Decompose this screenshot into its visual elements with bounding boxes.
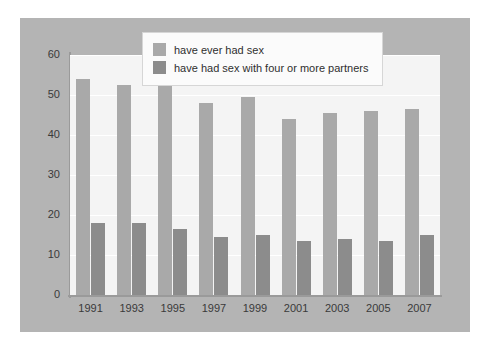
y-tick-label: 50: [34, 89, 60, 100]
bar: [323, 113, 337, 295]
legend-item-label: have had sex with four or more partners: [174, 62, 368, 74]
bar: [173, 229, 187, 295]
bar: [214, 237, 228, 295]
x-tick-label: 2007: [399, 302, 440, 314]
legend-item-label: have ever had sex: [174, 44, 264, 56]
chart-legend: have ever had sexhave had sex with four …: [142, 32, 383, 86]
x-tick-label: 1995: [152, 302, 193, 314]
bar: [117, 85, 131, 295]
x-tick-label: 1999: [234, 302, 275, 314]
legend-item: have had sex with four or more partners: [153, 59, 368, 76]
bar: [199, 103, 213, 295]
bar-chart-figure: 0102030405060 19911993199519971999200120…: [0, 0, 491, 350]
bar: [379, 241, 393, 295]
x-tick-label: 2005: [358, 302, 399, 314]
x-tick-label: 2003: [317, 302, 358, 314]
x-tick-label: 1993: [111, 302, 152, 314]
bar: [420, 235, 434, 295]
y-tick-label: 20: [34, 209, 60, 220]
bar: [132, 223, 146, 295]
legend-swatch-icon: [153, 43, 166, 56]
x-tick-label: 1997: [193, 302, 234, 314]
bar: [256, 235, 270, 295]
y-tick-label: 40: [34, 129, 60, 140]
plot-area: [70, 55, 440, 295]
bar: [76, 79, 90, 295]
bar: [338, 239, 352, 295]
legend-item: have ever had sex: [153, 41, 368, 58]
x-tick-label: 2001: [276, 302, 317, 314]
bar: [405, 109, 419, 295]
legend-swatch-icon: [153, 61, 166, 74]
bar: [364, 111, 378, 295]
bar: [297, 241, 311, 295]
x-tick-label: 1991: [70, 302, 111, 314]
x-axis-line: [68, 295, 442, 297]
y-tick-label: 10: [34, 249, 60, 260]
bar: [158, 85, 172, 295]
bar: [282, 119, 296, 295]
y-tick-label: 30: [34, 169, 60, 180]
chart-panel: 0102030405060 19911993199519971999200120…: [20, 18, 470, 332]
y-tick-label: 0: [34, 289, 60, 300]
bar: [241, 97, 255, 295]
bar: [91, 223, 105, 295]
y-tick-label: 60: [34, 49, 60, 60]
